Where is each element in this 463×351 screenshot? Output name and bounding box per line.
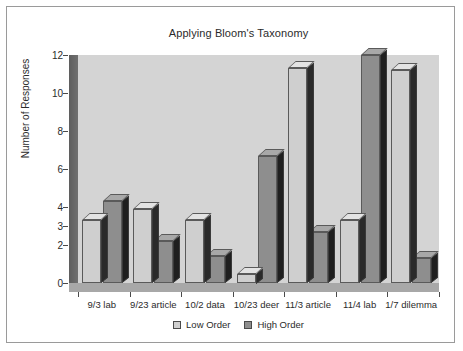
x-axis-label: 1/7 dilemma xyxy=(385,299,437,310)
x-tick-mark xyxy=(78,292,79,297)
bar-front-face xyxy=(185,220,204,283)
bar-side-face xyxy=(173,236,180,283)
bar-side-face xyxy=(204,215,211,283)
y-tick-mark xyxy=(63,207,68,208)
legend-label: High Order xyxy=(257,319,303,330)
x-axis-label: 10/23 deer xyxy=(234,299,279,310)
y-tick-label: 8 xyxy=(57,126,63,137)
x-axis-label: 10/2 data xyxy=(185,299,225,310)
x-axis-label: 11/3 article xyxy=(285,299,331,310)
bar-low-order xyxy=(133,209,152,283)
bar-side-face xyxy=(410,65,417,283)
bar-front-face xyxy=(133,209,152,283)
y-tick-label: 4 xyxy=(57,202,63,213)
y-tick-label: 3 xyxy=(57,221,63,232)
bar-front-face xyxy=(82,220,101,283)
bar-front-face xyxy=(391,70,410,283)
chart-frame: Applying Bloom's Taxonomy Number of Resp… xyxy=(6,6,455,343)
bar-low-order xyxy=(237,274,256,284)
bar-front-face xyxy=(237,274,256,284)
y-tick-mark xyxy=(63,283,68,284)
y-tick-label: 6 xyxy=(57,164,63,175)
legend-label: Low Order xyxy=(186,319,230,330)
y-tick-mark xyxy=(63,226,68,227)
bar-low-order xyxy=(391,70,410,283)
bar-low-order xyxy=(185,220,204,283)
x-tick-mark xyxy=(181,292,182,297)
bar-low-order xyxy=(82,220,101,283)
legend-swatch xyxy=(173,321,181,329)
y-axis-label: Number of Responses xyxy=(20,29,31,189)
legend-swatch xyxy=(244,321,252,329)
chart-legend: Low OrderHigh Order xyxy=(7,319,463,330)
x-tick-mark xyxy=(439,292,440,297)
y-tick-mark xyxy=(63,55,68,56)
y-tick-label: 10 xyxy=(52,88,63,99)
bar-side-face xyxy=(307,63,314,283)
bar-side-face xyxy=(101,215,108,283)
x-tick-mark xyxy=(130,292,131,297)
x-tick-mark xyxy=(336,292,337,297)
x-tick-mark xyxy=(233,292,234,297)
x-tick-mark xyxy=(387,292,388,297)
bar-side-face xyxy=(152,203,159,283)
bar-front-face xyxy=(288,68,307,283)
x-axis-label: 11/4 lab xyxy=(343,299,376,310)
bar-low-order xyxy=(340,220,359,283)
plot-side-wall xyxy=(69,55,78,292)
bar-side-face xyxy=(359,215,366,283)
plot-area: 0234681012 xyxy=(69,55,439,292)
plot-floor-strip xyxy=(69,283,439,292)
y-tick-mark xyxy=(63,93,68,94)
legend-item-low-order[interactable]: Low Order xyxy=(173,319,230,330)
bar-side-face xyxy=(122,196,129,283)
y-tick-mark xyxy=(63,169,68,170)
bar-side-face xyxy=(380,50,387,283)
y-tick-label: 12 xyxy=(52,50,63,61)
bar-low-order xyxy=(288,68,307,283)
y-tick-label: 0 xyxy=(57,278,63,289)
bar-front-face xyxy=(258,156,277,283)
bar-front-face xyxy=(340,220,359,283)
bar-side-face xyxy=(328,226,335,283)
x-axis-label: 9/3 lab xyxy=(88,299,117,310)
chart-title: Applying Bloom's Taxonomy xyxy=(7,27,463,39)
bar-high-order xyxy=(258,156,277,283)
y-tick-mark xyxy=(63,245,68,246)
y-tick-label: 2 xyxy=(57,240,63,251)
x-tick-mark xyxy=(284,292,285,297)
legend-item-high-order[interactable]: High Order xyxy=(244,319,303,330)
x-axis-label: 9/23 article xyxy=(130,299,176,310)
bar-side-face xyxy=(277,150,284,283)
y-tick-mark xyxy=(63,131,68,132)
